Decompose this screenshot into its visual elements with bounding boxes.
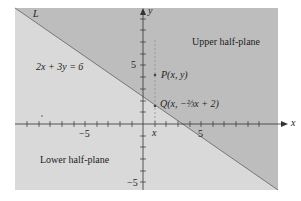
half-plane-diagram [0,0,301,201]
y-tick-label-5: 5 [131,60,136,70]
point-P-label: P(x, y) [161,70,188,80]
line-label: L [33,9,39,19]
x-marker-label: x [152,128,156,138]
lower-half-plane-label: Lower half-plane [40,155,109,165]
dot-mark [41,115,43,117]
upper-half-plane-label: Upper half-plane [192,37,260,47]
x-axis-arrow-icon [281,121,288,127]
y-tick-label-neg5: −5 [127,178,138,188]
x-axis-label: x [291,118,295,128]
x-tick-label-neg5: −5 [79,129,90,139]
point-P [154,74,157,77]
point-Q [154,105,157,108]
y-axis-label: y [148,6,152,16]
point-Q-label: Q(x, −⅔x + 2) [160,99,219,109]
equation-label: 2x + 3y = 6 [36,62,83,72]
x-tick-label-5: 5 [198,129,203,139]
